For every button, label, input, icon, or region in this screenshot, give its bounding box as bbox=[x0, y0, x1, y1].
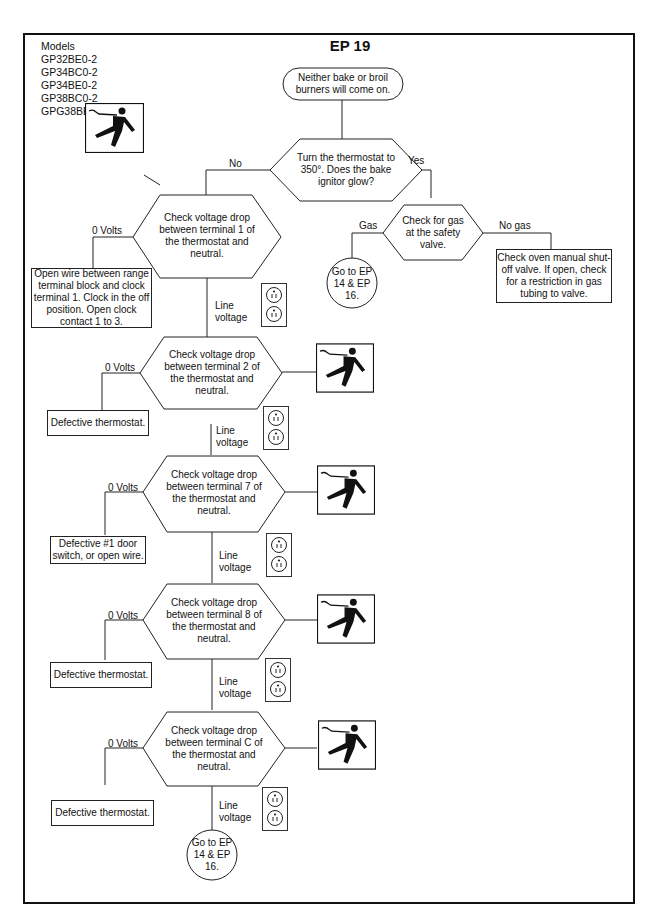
check-terminal-2: Check voltage drop between terminal 2 of… bbox=[156, 343, 268, 403]
outlet-icon bbox=[266, 533, 292, 577]
goto-ep14-ep16-bottom: Go to EP 14 & EP 16. bbox=[190, 834, 234, 876]
electric-shock-hazard-icon bbox=[317, 594, 375, 644]
line-voltage-label: Line voltage bbox=[219, 676, 264, 700]
fail-result-box: Defective #1 door switch, or open wire. bbox=[50, 536, 146, 564]
outlet-icon bbox=[265, 658, 291, 702]
yes-label: Yes bbox=[408, 155, 424, 167]
no-gas-result-box: Check oven manual shut-off valve. If ope… bbox=[496, 249, 612, 303]
fail-result-box: Defective thermostat. bbox=[47, 410, 149, 436]
check-terminal-8: Check voltage drop between terminal 8 of… bbox=[158, 590, 270, 652]
no-label: No bbox=[229, 158, 242, 170]
check-terminal-c: Check voltage drop between terminal C of… bbox=[158, 718, 270, 780]
gas-check-decision: Check for gas at the safety valve. bbox=[398, 210, 468, 256]
outlet-icon bbox=[261, 283, 287, 327]
goto-ep14-ep16-top: Go to EP 14 & EP 16. bbox=[329, 262, 375, 306]
fail-result-box: Open wire between range terminal block a… bbox=[31, 268, 152, 328]
no-gas-label: No gas bbox=[499, 220, 531, 232]
line-voltage-label: Line voltage bbox=[219, 550, 264, 574]
gas-label: Gas bbox=[359, 220, 377, 232]
line-voltage-label: Line voltage bbox=[219, 800, 264, 824]
fail-result-box: Defective thermostat. bbox=[50, 662, 152, 688]
zero-volts-label: 0 Volts bbox=[108, 482, 138, 494]
q1-decision: Turn the thermostat to 350°. Does the ba… bbox=[290, 142, 402, 198]
zero-volts-label: 0 Volts bbox=[108, 610, 138, 622]
zero-volts-label: 0 Volts bbox=[92, 225, 122, 237]
line-voltage-label: Line voltage bbox=[215, 300, 260, 324]
outlet-icon bbox=[262, 787, 288, 831]
electric-shock-hazard-icon bbox=[316, 343, 374, 393]
check-terminal-1: Check voltage drop between terminal 1 of… bbox=[152, 205, 262, 267]
fail-result-box: Defective thermostat. bbox=[51, 800, 154, 826]
start-terminator: Neither bake or broil burners will come … bbox=[283, 68, 403, 100]
check-terminal-7: Check voltage drop between terminal 7 of… bbox=[158, 462, 270, 524]
line-voltage-label: Line voltage bbox=[216, 425, 261, 449]
electric-shock-hazard-icon bbox=[317, 465, 375, 515]
zero-volts-label: 0 Volts bbox=[108, 738, 138, 750]
outlet-icon bbox=[263, 406, 289, 450]
electric-shock-hazard-icon bbox=[85, 103, 144, 153]
zero-volts-label: 0 Volts bbox=[105, 362, 135, 374]
electric-shock-hazard-icon bbox=[318, 720, 376, 770]
